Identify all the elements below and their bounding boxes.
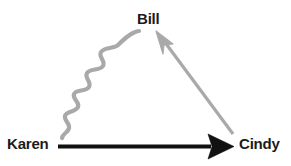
node-label-cindy: Cindy	[239, 136, 280, 151]
node-label-bill: Bill	[137, 11, 160, 26]
diagram-canvas: Bill Karen Cindy	[0, 0, 291, 166]
edge-karen-to-bill-wavy	[62, 31, 139, 138]
node-label-karen: Karen	[7, 136, 49, 151]
edge-cindy-to-bill-shaft	[164, 41, 233, 134]
edge-karen-to-cindy-arrowhead	[208, 134, 234, 159]
